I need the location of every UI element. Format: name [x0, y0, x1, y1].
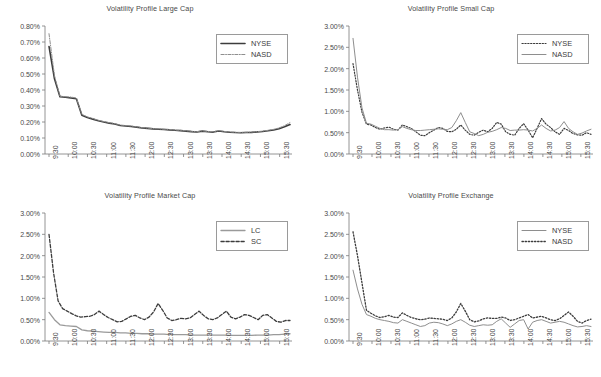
legend-swatch — [521, 237, 547, 246]
plot-area — [0, 4, 300, 190]
legend-item-nasd: NASD — [521, 49, 584, 60]
y-axis-label: 3.00% — [0, 210, 40, 217]
x-axis-label: 14:30 — [546, 328, 553, 346]
x-axis-label: 12:00 — [148, 328, 155, 346]
x-axis-label: 12:00 — [451, 141, 458, 159]
x-axis-label: 13:00 — [489, 328, 496, 346]
x-axis-label: 12:30 — [167, 141, 174, 159]
x-axis-label: 15:30 — [584, 328, 591, 346]
chart-panel-market-cap: Volatility Profile Market Cap 0.00%0.50%… — [0, 191, 300, 377]
x-axis-label: 14:30 — [244, 141, 251, 159]
y-axis-label: 0.10% — [0, 135, 40, 142]
chart-legend: NYSENASD — [517, 34, 589, 64]
y-axis-label: 2.50% — [301, 44, 344, 51]
legend-item-lc: LC — [220, 225, 283, 236]
legend-swatch — [521, 39, 547, 48]
x-axis-label: 15:00 — [263, 141, 270, 159]
y-axis-label: 0.30% — [0, 103, 40, 110]
x-axis-label: 11:00 — [110, 329, 117, 346]
x-axis-label: 10:30 — [394, 141, 401, 159]
chart-legend: NYSENASD — [216, 34, 288, 64]
x-axis-label: 13:00 — [489, 141, 496, 159]
y-axis-label: 1.50% — [301, 274, 344, 281]
y-axis-label: 0.50% — [0, 316, 40, 323]
chart-legend: LCSC — [216, 221, 288, 251]
plot-area — [301, 191, 601, 377]
x-axis-label: 14:00 — [225, 141, 232, 159]
x-axis-label: 14:30 — [244, 328, 251, 346]
x-axis-label: 10:00 — [71, 328, 78, 346]
x-axis-label: 12:30 — [470, 328, 477, 346]
y-axis-label: 0.40% — [0, 87, 40, 94]
y-axis-label: 2.00% — [0, 252, 40, 259]
y-axis-label: 2.50% — [0, 231, 40, 238]
x-axis-label: 9:30 — [52, 332, 59, 346]
x-axis-label: 10:30 — [90, 328, 97, 346]
y-axis-label: 0.00% — [301, 151, 344, 158]
y-axis-label: 0.00% — [301, 338, 344, 345]
x-axis-label: 11:30 — [129, 329, 136, 346]
x-axis-label: 14:00 — [527, 141, 534, 159]
legend-label: NYSE — [251, 39, 271, 48]
x-axis-label: 13:30 — [508, 141, 515, 159]
legend-label: NASD — [251, 50, 272, 59]
y-axis-label: 1.00% — [0, 295, 40, 302]
x-axis-label: 12:30 — [167, 328, 174, 346]
x-axis-label: 10:00 — [375, 328, 382, 346]
x-axis-label: 12:30 — [470, 141, 477, 159]
x-axis-label: 10:30 — [394, 328, 401, 346]
y-axis-label: 1.50% — [301, 87, 344, 94]
x-axis-label: 14:00 — [527, 328, 534, 346]
x-axis-label: 15:30 — [283, 328, 290, 346]
y-axis-label: 2.00% — [301, 252, 344, 259]
y-axis-label: 0.00% — [0, 338, 40, 345]
x-axis-label: 11:30 — [129, 142, 136, 159]
x-axis-label: 15:00 — [263, 328, 270, 346]
x-axis-label: 15:00 — [565, 328, 572, 346]
chart-panel-exchange: Volatility Profile Exchange 0.00%0.50%1.… — [301, 191, 601, 377]
y-axis-label: 0.70% — [0, 39, 40, 46]
x-axis-label: 12:00 — [451, 328, 458, 346]
x-axis-label: 13:30 — [508, 328, 515, 346]
x-axis-label: 10:00 — [71, 141, 78, 159]
y-axis-label: 1.00% — [301, 295, 344, 302]
legend-swatch — [220, 226, 246, 235]
figure-sheet: Volatility Profile Large Cap 0.00%0.10%0… — [0, 0, 601, 377]
chart-panel-small-cap: Volatility Profile Small Cap 0.00%0.50%1… — [301, 4, 601, 190]
x-axis-label: 11:00 — [110, 142, 117, 159]
legend-item-nyse: NYSE — [521, 225, 584, 236]
x-axis-label: 9:30 — [356, 145, 363, 159]
x-axis-label: 15:30 — [283, 141, 290, 159]
legend-swatch — [521, 50, 547, 59]
x-axis-label: 13:30 — [206, 141, 213, 159]
chart-panel-large-cap: Volatility Profile Large Cap 0.00%0.10%0… — [0, 4, 300, 190]
legend-label: SC — [251, 237, 261, 246]
x-axis-label: 11:00 — [413, 329, 420, 346]
y-axis-label: 0.80% — [0, 23, 40, 30]
legend-swatch — [220, 39, 246, 48]
y-axis-label: 3.00% — [301, 210, 344, 217]
plot-area — [0, 191, 300, 377]
x-axis-label: 11:00 — [413, 142, 420, 159]
chart-legend: NYSENASD — [517, 221, 589, 251]
legend-item-nyse: NYSE — [521, 38, 584, 49]
legend-item-sc: SC — [220, 236, 283, 247]
x-axis-label: 14:00 — [225, 328, 232, 346]
y-axis-label: 2.50% — [301, 231, 344, 238]
x-axis-label: 10:30 — [90, 141, 97, 159]
x-axis-label: 13:30 — [206, 328, 213, 346]
y-axis-label: 3.00% — [301, 23, 344, 30]
series-line-nyse — [353, 64, 591, 138]
y-axis-label: 0.00% — [0, 151, 40, 158]
legend-label: NASD — [552, 50, 573, 59]
y-axis-label: 2.00% — [301, 65, 344, 72]
x-axis-label: 14:30 — [546, 141, 553, 159]
legend-item-nasd: NASD — [521, 236, 584, 247]
x-axis-label: 15:00 — [565, 141, 572, 159]
x-axis-label: 10:00 — [375, 141, 382, 159]
x-axis-label: 9:30 — [356, 332, 363, 346]
x-axis-label: 11:30 — [432, 329, 439, 346]
plot-area — [301, 4, 601, 190]
x-axis-label: 13:00 — [187, 141, 194, 159]
y-axis-label: 0.60% — [0, 55, 40, 62]
